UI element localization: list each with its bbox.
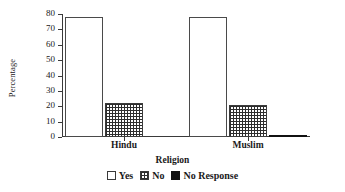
- y-tick: 10: [58, 122, 62, 123]
- hatched-square-icon: [140, 171, 149, 180]
- y-tick-label: 10: [33, 116, 55, 127]
- y-tick-label: 70: [33, 23, 55, 34]
- y-tick-label: 30: [33, 85, 55, 96]
- y-tick: 30: [58, 91, 62, 92]
- legend-item-no-response[interactable]: No Response: [171, 170, 238, 181]
- bar-muslim-yes: [189, 17, 227, 137]
- y-tick-label: 40: [33, 70, 55, 81]
- bar-hindu-yes: [65, 17, 103, 137]
- y-tick-label: 60: [33, 39, 55, 50]
- x-category-label-muslim: Muslim: [208, 140, 288, 150]
- y-tick: 50: [58, 60, 62, 61]
- y-axis-title: Percentage: [7, 38, 17, 118]
- bar-muslim-no-response: [269, 135, 307, 137]
- empty-square-icon: [107, 171, 116, 180]
- y-tick: 40: [58, 76, 62, 77]
- legend-label: Yes: [119, 170, 133, 181]
- y-tick: 0: [58, 137, 62, 138]
- y-tick: 20: [58, 106, 62, 107]
- plot-area: 01020304050607080: [62, 14, 310, 137]
- y-axis-line: [62, 14, 63, 137]
- legend-label: No Response: [183, 170, 238, 181]
- y-tick: 80: [58, 14, 62, 15]
- y-tick-label: 80: [33, 8, 55, 19]
- legend-label: No: [152, 170, 164, 181]
- x-axis-title: Religion: [0, 155, 345, 165]
- y-tick-label: 50: [33, 54, 55, 65]
- legend-item-yes[interactable]: Yes: [107, 170, 133, 181]
- filled-square-icon: [171, 171, 180, 180]
- x-category-label-hindu: Hindu: [84, 140, 164, 150]
- legend-item-no[interactable]: No: [140, 170, 164, 181]
- y-tick: 70: [58, 29, 62, 30]
- chart-legend: YesNoNo Response: [0, 170, 345, 181]
- bar-chart: Percentage 01020304050607080 HinduMuslim…: [0, 0, 345, 192]
- bar-muslim-no: [229, 105, 267, 137]
- y-tick: 60: [58, 45, 62, 46]
- y-tick-label: 0: [33, 131, 55, 142]
- bar-hindu-no: [105, 103, 143, 137]
- y-tick-label: 20: [33, 100, 55, 111]
